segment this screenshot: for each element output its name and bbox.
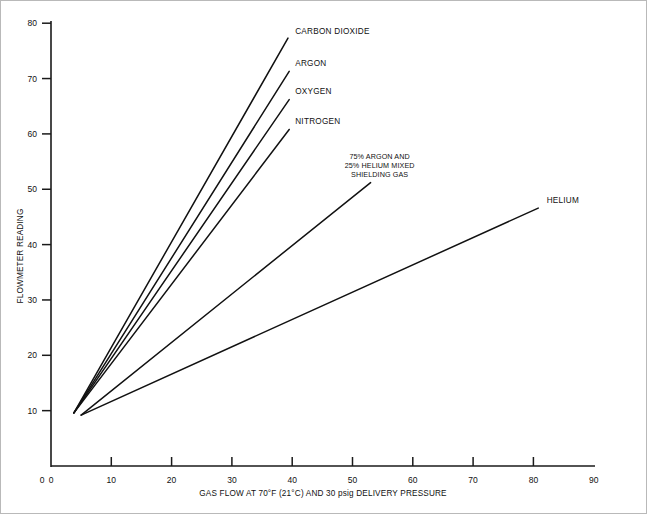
y-tick-label: 10 (28, 406, 38, 416)
series-label: 75% ARGON AND25% HELIUM MIXEDSHIELDING G… (345, 152, 415, 179)
series-label: OXYGEN (295, 87, 332, 96)
x-tick-label: 10 (107, 475, 117, 485)
x-axis-ticks: 0102030405060708090 (49, 457, 599, 485)
x-tick-label: 80 (529, 475, 539, 485)
series-line (74, 38, 288, 413)
y-tick-label: 70 (28, 74, 38, 84)
x-tick-label: 20 (167, 475, 177, 485)
series-label: HELIUM (547, 196, 579, 205)
y-tick-label: 40 (28, 240, 38, 250)
x-tick-label: 40 (287, 475, 297, 485)
series-line (74, 100, 289, 413)
series-label: ARGON (295, 59, 326, 68)
series-line (74, 71, 289, 413)
flowmeter-reading-chart: 01020304050607080 0102030405060708090 FL… (1, 1, 648, 515)
x-tick-label: 50 (348, 475, 358, 485)
y-axis-ticks: 01020304050607080 (28, 18, 51, 485)
series-line (81, 183, 370, 415)
x-tick-label: 90 (589, 475, 599, 485)
chart-frame: 01020304050607080 0102030405060708090 FL… (0, 0, 647, 514)
y-tick-label: 30 (28, 295, 38, 305)
x-axis-title: GAS FLOW AT 70°F (21°C) AND 30 psig DELI… (199, 489, 447, 498)
y-tick-label: 60 (28, 129, 38, 139)
y-axis: 01020304050607080 (28, 18, 51, 485)
series-label: NITROGEN (295, 117, 340, 126)
y-tick-label: 20 (28, 350, 38, 360)
y-tick-label: 80 (28, 18, 38, 28)
y-axis-title: FLOWMETER READING (16, 209, 25, 304)
y-tick-label: 50 (28, 184, 38, 194)
series-label: CARBON DIOXIDE (295, 27, 370, 36)
x-tick-label: 60 (408, 475, 418, 485)
series-labels-group: CARBON DIOXIDEARGONOXYGENNITROGEN75% ARG… (295, 27, 579, 204)
x-tick-label: 0 (49, 475, 54, 485)
x-tick-label: 70 (468, 475, 478, 485)
y-tick-label: 0 (40, 475, 45, 485)
x-tick-label: 30 (227, 475, 237, 485)
series-line (81, 208, 538, 415)
x-axis: 0102030405060708090 (49, 457, 599, 485)
